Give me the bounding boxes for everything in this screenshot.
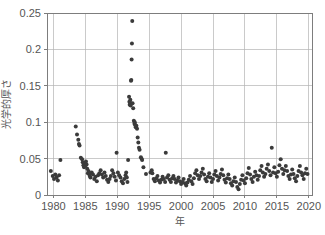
data-point	[214, 169, 218, 173]
data-point	[104, 174, 108, 178]
data-point	[207, 171, 211, 175]
data-point	[125, 176, 129, 180]
data-point	[115, 151, 119, 155]
data-point	[102, 170, 106, 174]
data-point	[244, 176, 248, 180]
data-point	[267, 169, 271, 173]
data-point	[182, 177, 186, 181]
data-point	[224, 181, 228, 185]
data-point	[257, 174, 261, 178]
data-point	[260, 164, 264, 168]
data-point	[253, 170, 257, 174]
data-point	[238, 182, 242, 186]
data-point	[194, 168, 198, 172]
data-point	[243, 181, 247, 185]
data-point	[275, 175, 279, 179]
data-point	[217, 176, 221, 180]
y-axis-tick-label: 0.05	[20, 153, 41, 165]
data-point	[279, 157, 283, 161]
y-axis-tick-label: 0.15	[20, 80, 41, 92]
x-axis-tick-label: 2020	[297, 200, 321, 212]
data-point	[78, 144, 82, 148]
data-point	[118, 176, 122, 180]
x-axis-tick-label: 1990	[105, 200, 129, 212]
data-point	[291, 172, 295, 176]
data-point	[205, 179, 209, 183]
data-point	[75, 133, 79, 137]
data-point	[124, 170, 128, 174]
data-point	[298, 164, 302, 168]
data-point	[136, 135, 140, 139]
data-point	[130, 42, 134, 46]
data-point	[240, 173, 244, 177]
data-point	[99, 168, 103, 172]
data-point	[285, 169, 289, 173]
data-point	[163, 180, 167, 184]
data-point	[56, 178, 60, 182]
data-point	[169, 180, 173, 184]
data-point	[228, 177, 232, 181]
x-axis-tick-label: 1985	[73, 200, 97, 212]
y-axis-tick-label: 0	[35, 189, 41, 201]
data-point	[256, 178, 260, 182]
data-point	[126, 158, 130, 162]
data-point	[135, 127, 139, 131]
data-point	[234, 180, 238, 184]
x-axis-tick-label: 1995	[137, 200, 161, 212]
data-point	[155, 174, 159, 178]
data-point	[131, 101, 135, 105]
x-axis-tick-label: 2010	[233, 200, 257, 212]
data-point	[95, 179, 99, 183]
data-point	[276, 170, 280, 174]
data-point	[128, 98, 132, 102]
data-point	[164, 151, 168, 155]
data-point	[302, 177, 306, 181]
data-point	[141, 165, 145, 169]
x-axis-tick-label: 2015	[265, 200, 289, 212]
data-point	[125, 180, 129, 184]
data-point	[58, 158, 62, 162]
data-point	[263, 172, 267, 176]
x-axis-tick-label: 1980	[41, 200, 65, 212]
data-point	[295, 174, 299, 178]
data-point	[138, 148, 142, 152]
data-point	[131, 106, 135, 110]
x-axis-title: 年	[175, 215, 185, 227]
data-point	[150, 171, 154, 175]
data-point	[188, 174, 192, 178]
data-point	[144, 172, 148, 176]
y-axis-title: 光学的厚さ	[0, 79, 12, 129]
data-point	[130, 58, 134, 62]
data-point	[221, 173, 225, 177]
data-point	[130, 19, 134, 23]
data-point	[294, 179, 298, 183]
data-point	[211, 177, 215, 181]
data-point	[114, 178, 118, 182]
data-point	[266, 162, 270, 166]
data-point	[74, 125, 78, 129]
data-point	[113, 175, 117, 179]
data-point	[233, 176, 237, 180]
data-point	[230, 184, 234, 188]
data-point	[284, 164, 288, 168]
data-point	[237, 187, 241, 191]
y-axis-tick-label: 0.2	[26, 43, 41, 55]
data-point	[49, 169, 53, 173]
data-point	[166, 173, 170, 177]
data-point	[277, 163, 281, 167]
data-point	[251, 180, 255, 184]
data-point	[220, 168, 224, 172]
data-point	[85, 162, 89, 166]
data-point	[140, 158, 144, 162]
data-point	[121, 181, 125, 185]
data-point	[290, 168, 294, 172]
data-point	[136, 141, 140, 145]
data-point	[272, 165, 276, 169]
y-axis-tick-label: 0.1	[26, 116, 41, 128]
data-point	[129, 78, 133, 82]
data-point	[288, 177, 292, 181]
data-point	[201, 167, 205, 171]
data-point	[76, 138, 80, 142]
data-point	[306, 172, 310, 176]
data-point	[111, 171, 115, 175]
